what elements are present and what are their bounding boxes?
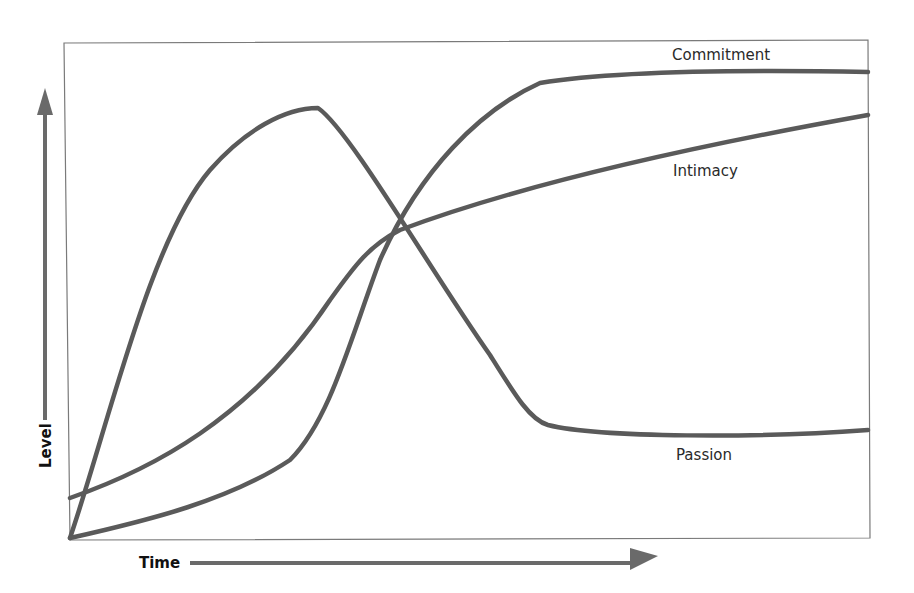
intimacy-curve: [70, 115, 868, 498]
plot-frame: [64, 40, 870, 540]
intimacy-label: Intimacy: [673, 162, 738, 180]
commitment-label: Commitment: [672, 46, 770, 64]
passion-label: Passion: [676, 446, 732, 464]
love-components-diagram: Commitment Intimacy Passion Level Time: [0, 0, 914, 593]
y-axis-label: Level: [37, 423, 55, 468]
passion-curve: [70, 108, 868, 538]
y-axis-arrowhead-icon: [37, 88, 53, 115]
x-axis-arrowhead-icon: [630, 548, 658, 570]
commitment-curve: [70, 71, 868, 538]
x-axis-label: Time: [139, 554, 180, 572]
